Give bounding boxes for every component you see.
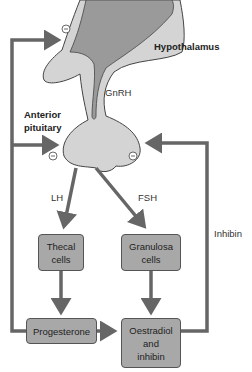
fsh-label: FSH	[138, 192, 157, 203]
oestradiol-line3: inhibin	[129, 350, 172, 363]
thecal-cells-box: Thecal cells	[38, 234, 84, 271]
diagram-canvas	[0, 0, 252, 372]
anterior-pituitary-label-line1: Anterior	[24, 109, 61, 120]
hypothalamus-label: Hypothalamus	[154, 41, 219, 52]
granulosa-line1: Granulosa	[129, 240, 173, 253]
thecal-line1: Thecal	[47, 240, 76, 253]
oestradiol-line2: and	[129, 337, 172, 350]
lh-label: LH	[51, 192, 63, 203]
granulosa-cells-box: Granulosa cells	[121, 234, 181, 271]
progesterone-text: Progesterone	[33, 325, 90, 338]
lh-arrow	[64, 168, 76, 226]
thecal-line2: cells	[47, 253, 76, 266]
oestradiol-line1: Oestradiol	[129, 324, 172, 337]
feedback-arrows	[12, 40, 207, 331]
progesterone-to-hypothalamus-arrow	[12, 40, 58, 331]
granulosa-line2: cells	[129, 253, 173, 266]
oestradiol-inhibin-box: Oestradiol and inhibin	[121, 318, 181, 368]
inhibin-label: Inhibin	[214, 228, 242, 239]
anterior-pituitary-label-line2: pituitary	[24, 122, 61, 133]
fsh-arrow	[96, 168, 144, 226]
gnrh-label: GnRH	[105, 87, 131, 98]
progesterone-box: Progesterone	[26, 318, 97, 344]
